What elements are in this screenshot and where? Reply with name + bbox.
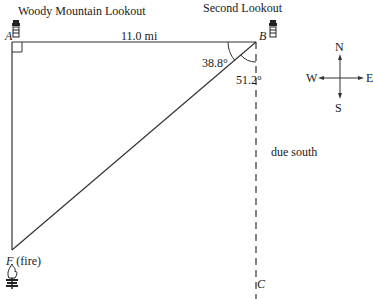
label-second-lookout: Second Lookout: [203, 2, 282, 14]
compass-east-label: E: [366, 72, 373, 84]
label-point-a: A: [5, 30, 12, 42]
label-woody-mountain-lookout: Woody Mountain Lookout: [18, 5, 146, 17]
lookout-tower-icon: [269, 20, 277, 37]
label-point-f: F: [6, 254, 13, 268]
label-angle-51: 51.2°: [236, 74, 262, 86]
angle-arc-51: [241, 55, 256, 62]
right-angle-mark: [12, 42, 22, 52]
label-fire-text: (fire): [16, 254, 41, 268]
angle-arc-38: [228, 42, 235, 60]
label-point-c: C: [257, 278, 265, 290]
compass-south-label: S: [335, 102, 342, 114]
lookout-tower-icon: [12, 20, 20, 37]
compass-north-label: N: [335, 41, 344, 53]
compass-west-label: W: [306, 72, 317, 84]
label-due-south: due south: [271, 146, 317, 158]
label-fire: F (fire): [6, 255, 41, 267]
segment-bf: [12, 42, 256, 250]
compass-rose: [318, 54, 364, 99]
label-distance-ab: 11.0 mi: [121, 30, 157, 42]
label-point-b: B: [259, 30, 266, 42]
label-angle-38: 38.8°: [202, 57, 228, 69]
